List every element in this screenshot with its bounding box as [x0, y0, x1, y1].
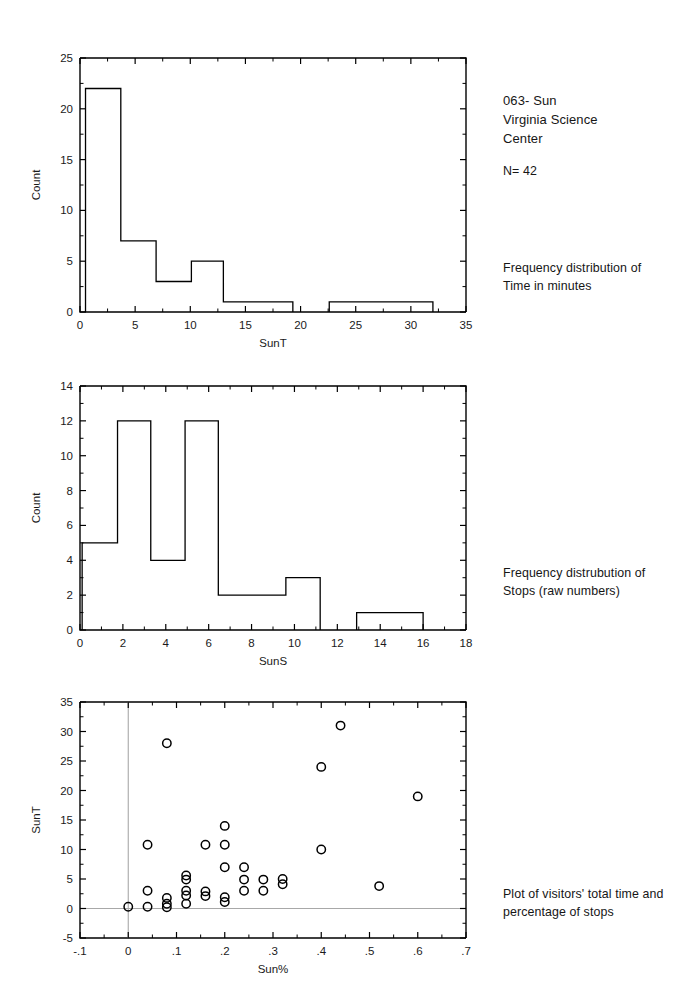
y-tick-label: 12	[60, 415, 73, 427]
y-tick-label: 0	[67, 624, 73, 636]
chart-suns-histogram: 02468101214161802468101214SunSCount	[18, 368, 488, 668]
y-tick-label: 5	[67, 255, 73, 267]
bars-group	[82, 421, 423, 630]
axis-frame-tr	[80, 58, 466, 312]
x-tick-label: 20	[294, 319, 307, 331]
y-tick-label: 20	[60, 785, 73, 797]
data-point	[221, 863, 229, 871]
x-tick-label: 12	[331, 637, 344, 649]
x-tick-label: 0	[77, 637, 83, 649]
x-tick-label: 10	[184, 319, 197, 331]
x-axis-title: Sun%	[258, 963, 289, 975]
data-point	[240, 863, 248, 871]
x-tick-label: 5	[132, 319, 138, 331]
y-tick-label: 15	[60, 154, 73, 166]
data-point	[317, 845, 325, 853]
x-tick-label: 0	[125, 945, 131, 957]
annotation-header: 063- Sun Virginia Science Center	[503, 91, 678, 148]
axis-frame-lb	[80, 386, 466, 630]
data-point	[221, 822, 229, 830]
x-tick-label: 15	[239, 319, 252, 331]
axis-frame-lb	[80, 58, 466, 312]
data-point	[336, 721, 344, 729]
data-point	[240, 875, 248, 883]
x-tick-label: .6	[413, 945, 423, 957]
sunt-histogram-svg: 051015202530350510152025SunTCount	[18, 40, 488, 350]
y-axis-title: Count	[30, 169, 42, 200]
y-tick-label: 5	[67, 873, 73, 885]
x-tick-label: 10	[288, 637, 301, 649]
data-point	[240, 887, 248, 895]
y-tick-label: 14	[60, 380, 73, 392]
plot-area: 051015202530350510152025	[60, 52, 472, 331]
y-tick-label: 35	[60, 696, 73, 708]
y-axis-title: SunT	[30, 806, 42, 834]
y-tick-label: -5	[63, 932, 73, 944]
y-tick-label: 4	[67, 554, 74, 566]
x-tick-label: 18	[460, 637, 473, 649]
y-tick-label: 10	[60, 844, 73, 856]
chart-sunt-vs-sunpct-scatter: -.10.1.2.3.4.5.6.7-505101520253035Sun%Su…	[18, 684, 488, 992]
histogram-bar-run	[329, 302, 433, 312]
x-tick-label: 4	[163, 637, 170, 649]
y-tick-label: 0	[67, 903, 73, 915]
x-tick-label: 16	[417, 637, 430, 649]
data-point	[201, 841, 209, 849]
axis-frame-lb	[80, 702, 466, 938]
annotation-caption-scatter: Plot of visitors' total time and percent…	[503, 886, 684, 921]
chart-sunt-histogram: 051015202530350510152025SunTCount	[18, 40, 488, 350]
x-tick-label: 0	[77, 319, 83, 331]
axis-frame-tr	[80, 386, 466, 630]
y-tick-label: 15	[60, 814, 73, 826]
y-tick-label: 6	[67, 519, 73, 531]
x-tick-label: 25	[349, 319, 362, 331]
x-tick-label: 8	[248, 637, 254, 649]
suns-histogram-svg: 02468101214161802468101214SunSCount	[18, 368, 488, 668]
x-tick-label: -.1	[73, 945, 86, 957]
y-tick-label: 30	[60, 726, 73, 738]
data-point	[182, 900, 190, 908]
y-tick-label: 8	[67, 485, 73, 497]
axis-frame-tr	[80, 702, 466, 938]
x-tick-label: 6	[205, 637, 211, 649]
data-point	[221, 841, 229, 849]
x-tick-label: .5	[365, 945, 375, 957]
data-point	[317, 763, 325, 771]
x-tick-label: 35	[460, 319, 473, 331]
y-tick-label: 10	[60, 450, 73, 462]
y-tick-label: 2	[67, 589, 73, 601]
x-tick-label: .2	[220, 945, 230, 957]
scatter-svg: -.10.1.2.3.4.5.6.7-505101520253035Sun%Su…	[18, 684, 488, 992]
data-point	[143, 903, 151, 911]
annotation-caption-time: Frequency distribution of Time in minute…	[503, 260, 683, 295]
x-tick-label: .4	[316, 945, 326, 957]
histogram-bar-run	[82, 421, 320, 630]
histogram-bar-run	[357, 613, 423, 630]
x-tick-label: .1	[172, 945, 182, 957]
histogram-bar-run	[86, 88, 293, 312]
x-tick-label: .7	[461, 945, 471, 957]
annotation-sample-size: N= 42	[503, 163, 678, 181]
annotation-caption-stops: Frequency distrubution of Stops (raw num…	[503, 565, 683, 600]
plot-area: -.10.1.2.3.4.5.6.7-505101520253035	[60, 696, 471, 957]
x-axis-title: SunT	[259, 337, 287, 349]
y-tick-label: 0	[67, 306, 73, 318]
x-tick-label: 2	[120, 637, 126, 649]
y-tick-label: 10	[60, 204, 73, 216]
data-point	[143, 841, 151, 849]
data-points-group	[124, 721, 422, 911]
data-point	[259, 887, 267, 895]
x-tick-label: .3	[268, 945, 278, 957]
bars-group	[86, 88, 433, 312]
data-point	[259, 875, 267, 883]
x-tick-label: 14	[374, 637, 387, 649]
data-point	[414, 792, 422, 800]
x-axis-title: SunS	[259, 655, 287, 667]
data-point	[143, 887, 151, 895]
y-axis-title: Count	[30, 492, 42, 523]
y-tick-label: 25	[60, 755, 73, 767]
y-tick-label: 25	[60, 52, 73, 64]
data-point	[375, 882, 383, 890]
data-point	[163, 894, 171, 902]
data-point	[163, 739, 171, 747]
